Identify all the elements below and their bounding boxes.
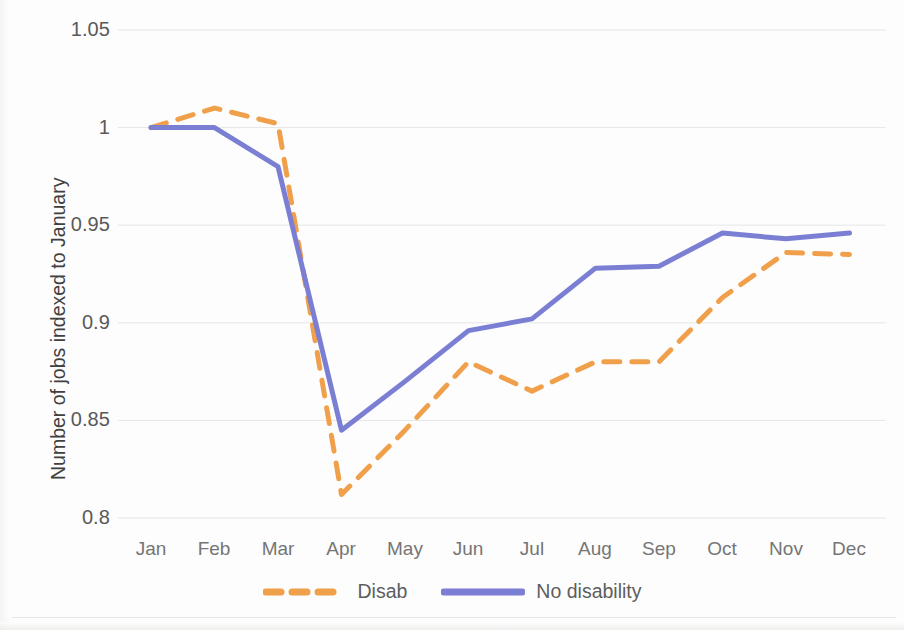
legend-swatch-solid-icon (441, 585, 525, 599)
legend-swatch-dashed-icon (263, 585, 347, 599)
x-tick-label-apr: Apr (311, 538, 371, 560)
x-tick-label-nov: Nov (756, 538, 816, 560)
chart-legend: Disab No disability (0, 580, 904, 603)
x-tick-label-dec: Dec (819, 538, 879, 560)
x-tick-label-jul: Jul (502, 538, 562, 560)
plot-area: Number of jobs indexed to January 1.05 1… (0, 0, 904, 630)
legend-label-no-disability: No disability (536, 580, 641, 603)
x-tick-label-mar: Mar (248, 538, 308, 560)
x-tick-label-feb: Feb (184, 538, 244, 560)
series-line-disab (151, 108, 850, 494)
x-tick-label-aug: Aug (565, 538, 625, 560)
legend-item-no-disability[interactable]: No disability (441, 580, 641, 603)
x-tick-label-may: May (375, 538, 435, 560)
legend-label-disab: Disab (358, 580, 408, 603)
x-tick-label-jun: Jun (438, 538, 498, 560)
chart-figure: Number of jobs indexed to January 1.05 1… (0, 0, 904, 630)
series-lines (151, 108, 850, 494)
x-tick-label-oct: Oct (692, 538, 752, 560)
chart-svg (0, 0, 904, 630)
x-tick-label-jan: Jan (121, 538, 181, 560)
x-tick-label-sep: Sep (629, 538, 689, 560)
legend-item-disab[interactable]: Disab (263, 580, 408, 603)
gridlines (118, 30, 886, 518)
